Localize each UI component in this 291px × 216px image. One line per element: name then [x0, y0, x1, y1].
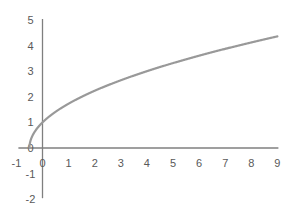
series-line: [29, 36, 277, 148]
y-tick-label: 1: [27, 116, 33, 128]
y-tick-label: -1: [26, 168, 36, 180]
x-tick-label: 6: [196, 157, 202, 169]
y-tick-label: -2: [26, 193, 36, 205]
x-tick-label: 1: [66, 157, 72, 169]
y-tick-labels: -2-1012345: [26, 14, 36, 205]
x-tick-label: 9: [274, 157, 280, 169]
series-layer: [29, 36, 277, 148]
x-tick-label: 2: [92, 157, 98, 169]
y-tick-label: 2: [27, 91, 33, 103]
x-tick-label: 8: [248, 157, 254, 169]
x-tick-labels: -10123456789: [12, 157, 281, 169]
chart: -10123456789 -2-1012345: [0, 0, 291, 216]
y-tick-label: 4: [27, 40, 33, 52]
x-tick-label: 3: [118, 157, 124, 169]
y-tick-label: 5: [27, 14, 33, 26]
x-tick-label: 0: [39, 157, 45, 169]
x-tick-label: 7: [222, 157, 228, 169]
y-tick-label: 3: [27, 65, 33, 77]
x-tick-label: 4: [144, 157, 150, 169]
x-tick-label: -1: [12, 157, 22, 169]
x-tick-label: 5: [170, 157, 176, 169]
